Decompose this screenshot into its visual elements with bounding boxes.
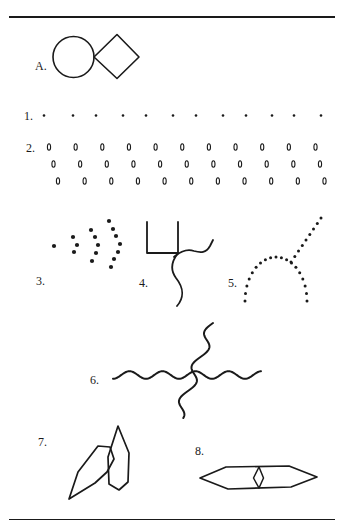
figure-5-arch-dot [298,271,301,274]
figure-3-dot [75,243,79,247]
figure-5-arch-dot [306,300,309,303]
figure-6-label: 6. [90,373,99,387]
figure-2-oval [105,161,108,168]
figure-1-dot [271,114,274,117]
figure-a: A. [35,35,139,79]
figure-3: 3. [36,219,122,288]
figure-2-oval [318,161,321,168]
figure-1-dot [222,114,225,117]
figure-8-inner-diamond [254,467,264,488]
figure-3-dot [112,257,116,261]
figure-5-diagonal-dot [316,222,319,225]
figure-5-label: 5. [228,276,237,290]
figure-1-dot [43,114,46,117]
figure-5-arch-dot [244,292,247,295]
figure-8: 8. [195,444,317,489]
figure-2-oval [181,144,184,151]
figure-1-label: 1. [24,109,33,123]
figure-2-oval [243,178,246,185]
figure-a-label: A. [35,59,47,73]
figure-5-diagonal-dot [308,233,311,236]
figure-2-label: 2. [26,141,35,155]
figure-5-arch-dot [251,271,254,274]
figure-7: 7. [38,426,129,499]
figure-2-ovals [47,144,326,185]
figure-5-arch-dot [255,266,258,269]
figure-4: 4. [139,222,213,306]
figure-2-oval [127,144,130,151]
figure-2-oval [234,144,237,151]
figure-3-dot [107,219,111,223]
figure-6: 6. [90,323,261,418]
figure-5-arch-dot [305,292,308,295]
figure-2-oval [270,178,273,185]
figure-4-curve-down [172,253,182,306]
figure-4-label: 4. [139,276,148,290]
figure-6-horizontal-wave [113,371,261,379]
figure-3-label: 3. [36,274,45,288]
figure-1-dots [43,114,323,117]
figure-5-arch-dot [280,256,283,259]
figure-3-dot [94,251,98,255]
figure-2: 2. [26,141,326,184]
figure-2-oval [296,178,299,185]
figure-5-diagonal-dot [297,250,300,253]
figure-5-diagonal-dot [312,228,315,231]
figure-2-oval [52,161,55,168]
figure-3-dot [109,265,113,269]
figure-3-dot [116,250,120,254]
figure-2-oval [101,144,104,151]
figure-5-dots [244,217,323,303]
figure-3-dot [93,235,97,239]
figure-7-upright-hexagon [108,426,129,490]
figure-2-oval [216,178,219,185]
figure-1-dot [172,114,175,117]
figure-2-oval [110,178,113,185]
figure-2-oval [323,178,326,185]
figure-1-dot [320,114,323,117]
figure-5-diagonal-dot [301,244,304,247]
figure-1-dot [145,114,148,117]
figure-3-dot [96,243,100,247]
figure-1-dot [293,114,296,117]
figure-5-diagonal-dot [293,255,296,258]
figure-3-dot [72,250,76,254]
figure-2-oval [185,161,188,168]
figure-sheet: A. 1. 2. 3. 4. 5. 6. 7. [0,0,345,525]
figure-5-arch-dot [259,261,262,264]
figure-3-dot [118,242,122,246]
figure-2-oval [47,144,50,151]
figure-1-dot [95,114,98,117]
figure-2-oval [265,161,268,168]
figure-sheet-canvas: A. 1. 2. 3. 4. 5. 6. 7. [0,0,345,525]
figure-2-oval [132,161,135,168]
figure-5-diagonal-dot [305,239,308,242]
figure-5-arch-dot [294,266,297,269]
figure-2-oval [163,178,166,185]
figure-2-oval [292,161,295,168]
figure-3-dot [114,234,118,238]
figure-3-dot [89,228,93,232]
figure-5-arch-dot [264,258,267,261]
figure-1-dot [195,114,198,117]
figure-3-dot [111,227,115,231]
figure-3-dot [90,259,94,263]
figure-5-arch-dot [304,285,307,288]
figure-1-dot [122,114,125,117]
figure-2-oval [238,161,241,168]
figure-2-oval [261,144,264,151]
figure-2-oval [136,178,139,185]
figure-7-label: 7. [38,435,47,449]
figure-2-oval [190,178,193,185]
figure-2-oval [56,178,59,185]
figure-4-curve-right [174,240,213,257]
figure-8-label: 8. [195,444,204,458]
figure-5-arch-dot [269,256,272,259]
figure-5-arch-dot [245,285,248,288]
figure-5-diagonal-dot [290,261,293,264]
figure-5-diagonal-dot [320,217,323,220]
figure-2-oval [154,144,157,151]
figure-5-arch-dot [244,300,247,303]
figure-7-tilted-hexagon [69,446,114,499]
figure-1: 1. [24,109,322,123]
